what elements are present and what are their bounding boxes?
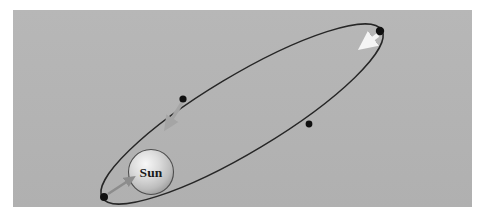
perihelion-point — [100, 193, 108, 201]
orbit-point-lower-right — [306, 121, 313, 128]
orbit-point-upper-left — [179, 95, 186, 102]
orbit-diagram: Sun — [0, 0, 486, 220]
illustration-panel — [13, 10, 472, 207]
sun-label: Sun — [139, 165, 162, 180]
figure-root: Sun — [0, 0, 486, 220]
aphelion-point — [376, 27, 384, 35]
